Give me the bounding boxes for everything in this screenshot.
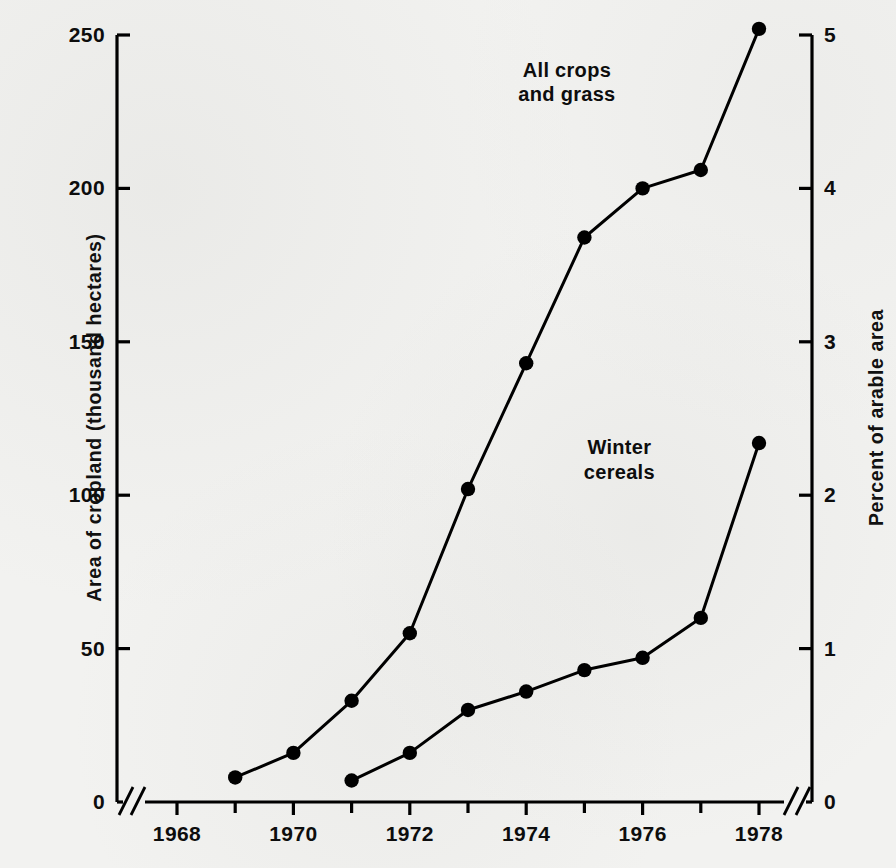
x-axis-tick-label: 1972 — [386, 822, 434, 846]
data-point — [403, 626, 417, 640]
data-point — [635, 651, 649, 665]
data-point — [694, 611, 708, 625]
data-point — [344, 773, 358, 787]
data-point — [286, 746, 300, 760]
series-label-1: Winter cereals — [584, 435, 655, 484]
y-axis-left-tick-label: 250 — [69, 23, 105, 47]
y-axis-left-tick-label: 0 — [93, 790, 105, 814]
chart-figure: Area of cropland (thousand hectares) Per… — [0, 0, 896, 868]
x-axis-tick-label: 1974 — [502, 822, 550, 846]
data-point — [403, 746, 417, 760]
y-axis-right-tick-label: 0 — [824, 790, 836, 814]
series-label-0: All crops and grass — [518, 58, 615, 107]
y-axis-left-tick-label: 100 — [69, 483, 105, 507]
y-axis-right-tick-label: 2 — [824, 483, 836, 507]
data-point — [577, 230, 591, 244]
y-axis-left-tick-label: 200 — [69, 176, 105, 200]
data-point — [461, 482, 475, 496]
y-axis-left-tick-label: 50 — [81, 637, 105, 661]
data-point — [519, 684, 533, 698]
x-axis-tick-label: 1968 — [153, 822, 201, 846]
data-point — [752, 22, 766, 36]
y-axis-left-tick-label: 150 — [69, 330, 105, 354]
data-point — [577, 663, 591, 677]
data-point — [694, 163, 708, 177]
data-point — [519, 356, 533, 370]
chart-series-group — [228, 22, 766, 788]
x-axis-tick-label: 1978 — [735, 822, 783, 846]
data-point — [344, 694, 358, 708]
y-axis-right-tick-label: 4 — [824, 176, 836, 200]
y-axis-left-title: Area of cropland (thousand hectares) — [83, 138, 106, 698]
data-point — [228, 770, 242, 784]
chart-plot-area — [0, 0, 896, 868]
data-point — [635, 181, 649, 195]
data-point — [461, 703, 475, 717]
data-point — [752, 436, 766, 450]
y-axis-right-tick-label: 5 — [824, 23, 836, 47]
x-axis-tick-label: 1976 — [618, 822, 666, 846]
y-axis-right-tick-label: 1 — [824, 637, 836, 661]
x-axis-tick-label: 1970 — [269, 822, 317, 846]
y-axis-right-title: Percent of arable area — [865, 138, 888, 698]
series-line-0 — [235, 29, 759, 778]
y-axis-right-tick-label: 3 — [824, 330, 836, 354]
